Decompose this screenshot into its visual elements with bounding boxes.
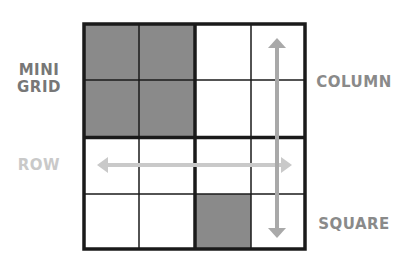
square-label: SQUARE	[316, 216, 392, 233]
row-label: ROW	[14, 157, 64, 174]
column-label: COLUMN	[316, 74, 392, 91]
shaded-square	[195, 194, 251, 249]
mini-grid-label: MINI GRID	[14, 62, 64, 96]
mini-grid-label-line1: MINI	[14, 62, 64, 79]
mini-grid-label-line2: GRID	[14, 79, 64, 96]
